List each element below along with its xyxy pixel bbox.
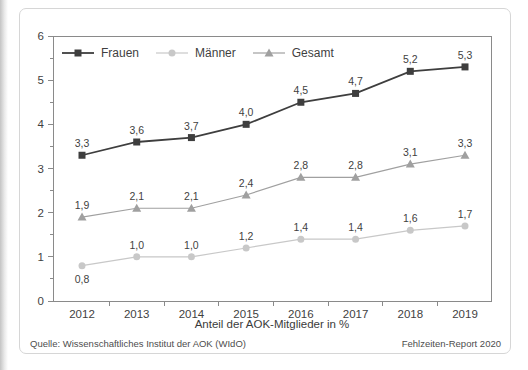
y-tick-label: 1 (38, 251, 44, 263)
data-point-marker (462, 222, 469, 229)
data-point-marker (352, 236, 359, 243)
data-point-label: 4,0 (239, 106, 254, 118)
data-point-label: 3,1 (403, 146, 418, 158)
x-axis-title: Anteil der AOK-Mitglieder in % (53, 318, 491, 330)
data-point-marker (79, 152, 86, 159)
data-point-label: 2,1 (129, 190, 144, 202)
data-point-label: 5,3 (458, 49, 473, 61)
series-gesamt: 1,92,12,12,42,82,83,13,3 (75, 137, 473, 220)
data-point-label: 1,2 (239, 230, 254, 242)
data-point-label: 1,9 (75, 199, 90, 211)
line-chart: 0123456201220132014201520162017201820193… (20, 9, 512, 355)
data-point-marker (133, 253, 140, 260)
data-point-label: 1,0 (129, 239, 144, 251)
data-point-marker (188, 134, 195, 141)
data-point-marker (133, 139, 140, 146)
y-axis: 0123456 (38, 30, 53, 307)
y-tick-label: 5 (38, 74, 44, 86)
data-point-label: 3,6 (129, 124, 144, 136)
data-point-label: 0,8 (75, 273, 90, 285)
data-point-label: 3,3 (75, 137, 90, 149)
plot-frame (53, 36, 491, 301)
data-point-marker (352, 90, 359, 97)
data-point-label: 2,8 (348, 159, 363, 171)
chart-card: 0123456201220132014201520162017201820193… (19, 8, 511, 354)
legend-item-frauen: Frauen (62, 46, 139, 60)
legend-item-männer: Männer (156, 46, 236, 60)
legend: FrauenMännerGesamt (62, 46, 334, 60)
data-point-label: 1,4 (294, 221, 309, 233)
series-männer: 0,81,01,01,21,41,41,61,7 (75, 208, 473, 285)
y-tick-label: 3 (38, 163, 44, 175)
legend-item-gesamt: Gesamt (253, 46, 334, 60)
report-note: Fehlzeiten-Report 2020 (402, 338, 501, 349)
y-tick-label: 2 (38, 207, 44, 219)
data-point-label: 5,2 (403, 53, 418, 65)
triangle-marker-icon (253, 48, 285, 58)
data-point-label: 1,4 (348, 221, 363, 233)
source-note: Quelle: Wissenschaftliches Institut der … (30, 338, 246, 349)
legend-label: Gesamt (292, 46, 334, 60)
y-tick-label: 4 (38, 118, 45, 130)
page-edge-shadow (0, 0, 8, 370)
data-point-label: 1,0 (184, 239, 199, 251)
data-point-marker (297, 99, 304, 106)
data-point-label: 3,3 (458, 137, 473, 149)
data-point-marker (79, 262, 86, 269)
series-frauen: 3,33,63,74,04,54,75,25,3 (75, 49, 473, 159)
data-point-marker (297, 236, 304, 243)
data-point-label: 2,4 (239, 177, 254, 189)
data-point-label: 1,7 (458, 208, 473, 220)
data-point-marker (407, 227, 414, 234)
data-point-label: 2,1 (184, 190, 199, 202)
data-point-label: 4,7 (348, 75, 363, 87)
figure-footer: Quelle: Wissenschaftliches Institut der … (30, 338, 501, 349)
data-point-marker (407, 68, 414, 75)
square-marker-icon (62, 48, 94, 58)
legend-label: Männer (195, 46, 236, 60)
data-point-label: 1,6 (403, 212, 418, 224)
y-tick-label: 0 (38, 295, 44, 307)
data-point-label: 2,8 (294, 159, 309, 171)
circle-marker-icon (156, 48, 188, 58)
data-point-label: 4,5 (294, 84, 309, 96)
data-point-label: 3,7 (184, 120, 199, 132)
data-point-marker (462, 63, 469, 70)
data-point-marker (188, 253, 195, 260)
data-point-marker (243, 245, 250, 252)
data-point-marker (461, 151, 470, 159)
data-point-marker (243, 121, 250, 128)
y-tick-label: 6 (38, 30, 44, 42)
legend-label: Frauen (101, 46, 139, 60)
